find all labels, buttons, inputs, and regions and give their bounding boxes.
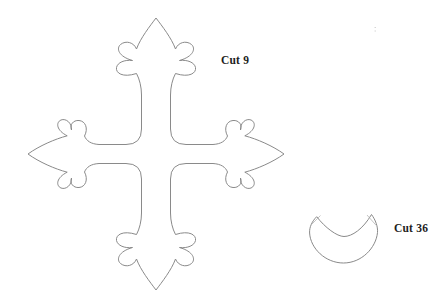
pattern-page: Cut 9 Cut 36 xyxy=(0,0,446,302)
collar-template-outline-icon xyxy=(310,215,378,264)
pattern-canvas xyxy=(0,0,446,302)
scan-artifact-mark xyxy=(375,28,377,32)
cross-cut-count-label: Cut 9 xyxy=(221,54,249,66)
collar-cut-count-label: Cut 36 xyxy=(394,222,428,234)
collar-tip-seam-marks-icon xyxy=(312,215,377,226)
